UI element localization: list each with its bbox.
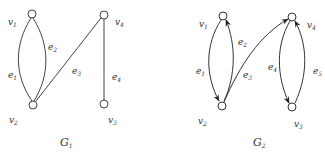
label-g1-e2: e2 [48, 42, 57, 53]
label-g1-v4: v4 [115, 17, 124, 28]
graph-title-g2: G2 [253, 136, 266, 149]
label-g2-v4: v4 [307, 20, 316, 31]
label-g1-e1: e1 [8, 70, 17, 81]
label-g1-v2: v2 [9, 115, 18, 126]
label-g2-v1: v1 [199, 19, 208, 30]
label-g2-e2: e2 [238, 37, 247, 48]
edge-g1-e1 [18, 18, 32, 101]
label-g2-e5: e5 [313, 66, 322, 77]
edge-g2-e4 [279, 21, 290, 103]
label-g1-v1: v1 [8, 17, 17, 28]
vertex-g1-v2 [29, 101, 37, 109]
vertex-g2-v2 [218, 102, 226, 110]
label-g1-e4: e4 [112, 72, 121, 83]
vertex-g2-v4 [288, 13, 296, 21]
label-g2-e1: e1 [196, 66, 205, 77]
edge-g1-e2 [33, 18, 46, 101]
graph-g2-vertices [218, 12, 296, 111]
label-g2-v3: v3 [294, 119, 303, 130]
edge-g2-e2 [224, 20, 233, 101]
graph-g2 [209, 19, 305, 103]
label-g2-e4: e4 [268, 62, 277, 73]
vertex-g1-v4 [100, 11, 108, 19]
vertex-g1-v1 [28, 10, 36, 18]
graph-diagram: v1 v2 v3 v4 e1 e2 e3 e4 G1 v1 v2 v3 v4 e… [0, 0, 325, 159]
edge-g2-e1 [209, 20, 221, 101]
label-g2-e3: e3 [243, 70, 252, 81]
vertex-g1-v3 [100, 100, 108, 108]
vertex-g2-v1 [219, 12, 227, 20]
graph-g1 [18, 18, 104, 101]
vertex-g2-v3 [288, 103, 296, 111]
label-g1-v3: v3 [108, 115, 117, 126]
label-g2-v2: v2 [198, 116, 207, 127]
graph-title-g1: G1 [60, 136, 73, 149]
label-g1-e3: e3 [72, 66, 81, 77]
edge-g2-e5 [295, 21, 305, 103]
